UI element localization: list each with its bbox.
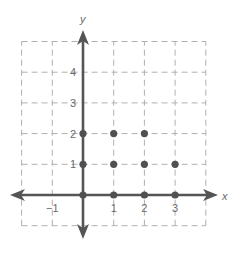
y-tick-label: 3: [70, 97, 76, 109]
x-axis-label: x: [221, 190, 228, 202]
x-tick-label: 1: [111, 202, 117, 214]
y-axis-label: y: [79, 13, 87, 25]
data-point: [141, 191, 148, 198]
data-point: [79, 191, 86, 198]
y-tick-label: 1: [70, 158, 76, 170]
data-point: [141, 161, 148, 168]
data-point: [110, 130, 117, 137]
x-tick-label: 3: [172, 202, 178, 214]
data-point: [110, 191, 117, 198]
data-point: [79, 161, 86, 168]
x-tick-label: −1: [46, 202, 59, 214]
y-tick-label: 4: [70, 66, 76, 78]
data-point: [79, 130, 86, 137]
data-point: [141, 130, 148, 137]
x-tick-label: 2: [141, 202, 147, 214]
coordinate-plane: −11231234 x y: [0, 0, 240, 253]
data-point: [172, 191, 179, 198]
y-tick-label: 2: [70, 128, 76, 140]
data-point: [172, 161, 179, 168]
data-point: [110, 161, 117, 168]
